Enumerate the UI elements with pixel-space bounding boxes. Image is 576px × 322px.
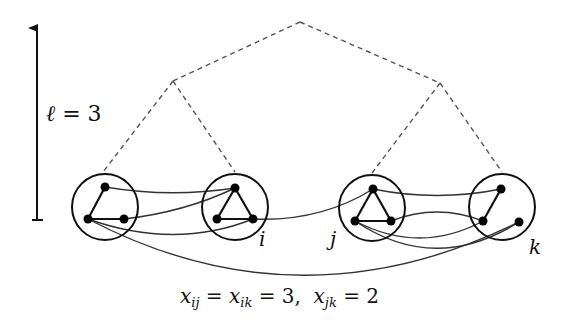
j-edge-top-right: [373, 189, 391, 221]
caption-sub-ij: ij: [191, 295, 199, 310]
caption: xij = xik = 3, xjk = 2: [180, 284, 379, 310]
level-value: = 3: [55, 101, 101, 126]
cluster-i: i: [202, 174, 268, 251]
tree-edge-right-j: [372, 83, 440, 173]
c1-node-right: [120, 215, 129, 224]
edge-iright-jtop: [253, 189, 373, 219]
c1-node-top: [101, 183, 110, 192]
tree-edge-right-k: [440, 83, 502, 172]
tree-edge-left-i: [173, 81, 235, 172]
tree-edge-left-c1: [103, 81, 173, 172]
k-node-top: [497, 185, 506, 194]
edge-jleft-kright: [355, 221, 519, 248]
k-node-left: [479, 217, 488, 226]
caption-sub-jk: jk: [322, 295, 337, 310]
cluster-label-k: k: [529, 235, 541, 259]
cluster-label-i: i: [259, 227, 265, 251]
caption-x-ik: x: [229, 284, 240, 308]
level-axis: ℓ = 3: [32, 28, 102, 220]
i-node-left: [213, 215, 222, 224]
edge-jtop-ktop: [373, 189, 501, 196]
tree-edge-root-right: [300, 22, 440, 83]
k-node-right: [515, 218, 524, 227]
j-node-left: [351, 217, 360, 226]
tree-edge-root-left: [173, 22, 300, 81]
cluster-j: j: [326, 175, 405, 251]
c1-edge-top-left: [88, 187, 105, 219]
edge-c1left-iright: [88, 219, 253, 235]
diagram-canvas: ℓ = 3 i: [0, 0, 576, 322]
edge-c1top-itop: [105, 187, 235, 193]
edge-jleft-kleft: [355, 221, 483, 238]
hierarchy-tree: [103, 22, 502, 173]
caption-eq2: = 3,: [252, 284, 313, 308]
caption-x-jk: x: [314, 284, 325, 308]
caption-eq1: =: [199, 284, 228, 308]
caption-sub-ik: ik: [240, 295, 252, 310]
i-node-right: [249, 215, 258, 224]
caption-eq3: = 2: [337, 284, 379, 308]
j-node-top: [369, 185, 378, 194]
i-node-top: [231, 184, 240, 193]
j-node-right: [387, 217, 396, 226]
inter-cluster-edges: [88, 187, 519, 275]
i-edge-top-right: [235, 188, 253, 219]
cluster-c1: [72, 174, 138, 240]
cluster-label-j: j: [326, 227, 336, 251]
cluster-k: k: [469, 174, 541, 259]
caption-x-ij: x: [180, 284, 191, 308]
k-edge-top-left: [483, 189, 501, 221]
c1-node-left: [84, 215, 93, 224]
level-label: ℓ = 3: [46, 101, 102, 126]
